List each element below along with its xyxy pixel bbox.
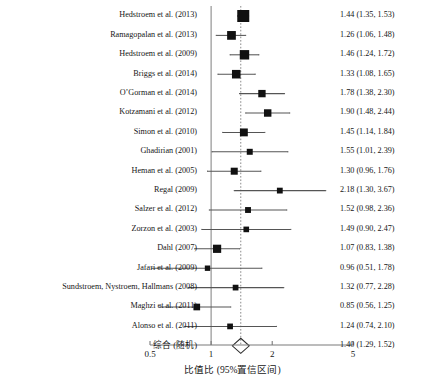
pooled-estimate-label: 1.40 (1.29, 1.52) xyxy=(340,341,395,349)
study-label: Heman et al. (2005) xyxy=(132,167,197,175)
study-label: Hedstroem et al. (2013) xyxy=(119,11,197,19)
effect-marker xyxy=(205,266,210,271)
effect-estimate-label: 1.26 (1.06, 1.48) xyxy=(340,31,395,39)
effect-marker xyxy=(264,109,271,116)
x-axis-title: 比值比 (95%置信区间) xyxy=(184,362,280,376)
study-label: Hedstroem et al. (2009) xyxy=(119,50,197,58)
study-label: Ramagopalan et al. (2013) xyxy=(110,31,197,39)
study-label: Maghzi et al. (2011) xyxy=(130,302,197,310)
study-label: O’Gorman et al. (2014) xyxy=(120,89,197,97)
effect-marker xyxy=(213,245,221,253)
effect-marker xyxy=(227,324,233,330)
study-label: Salzer et al. (2012) xyxy=(135,205,197,213)
study-label: Ghadirian (2001) xyxy=(140,147,197,155)
effect-marker xyxy=(277,188,283,194)
effect-marker xyxy=(247,149,253,155)
study-label: Jafari et al. (2009) xyxy=(137,264,197,272)
effect-estimate-label: 1.46 (1.24, 1.72) xyxy=(340,50,395,58)
effect-estimate-label: 0.96 (0.51, 1.78) xyxy=(340,264,395,272)
effect-marker xyxy=(227,31,236,40)
x-axis-tick-label: 5 xyxy=(351,349,356,359)
effect-marker xyxy=(245,207,251,213)
effect-estimate-label: 1.07 (0.83, 1.38) xyxy=(340,244,395,252)
study-label: Kotzamani et al. (2012) xyxy=(119,108,197,116)
effect-estimate-label: 0.85 (0.56, 1.25) xyxy=(340,302,395,310)
effect-estimate-label: 1.49 (0.90, 2.47) xyxy=(340,225,395,233)
effect-marker xyxy=(231,168,238,175)
pooled-label: 综合 (随机) xyxy=(153,341,197,350)
effect-estimate-label: 1.32 (0.77, 2.28) xyxy=(340,283,395,291)
effect-estimate-label: 2.18 (1.30, 3.67) xyxy=(340,186,395,194)
effect-marker xyxy=(240,50,249,59)
effect-estimate-label: 1.52 (0.98, 2.36) xyxy=(340,205,395,213)
effect-marker xyxy=(240,128,248,136)
effect-marker xyxy=(232,70,241,79)
study-label: Briggs et al. (2014) xyxy=(133,70,197,78)
study-label: Regal (2009) xyxy=(154,186,197,194)
study-label: Simon et al. (2010) xyxy=(134,128,197,136)
study-label: Alonso et al. (2011) xyxy=(132,322,197,330)
effect-marker xyxy=(243,227,249,233)
effect-estimate-label: 1.33 (1.08, 1.65) xyxy=(340,70,395,78)
x-axis-tick-label: 2 xyxy=(270,349,275,359)
effect-marker xyxy=(233,285,239,291)
effect-estimate-label: 1.44 (1.35, 1.53) xyxy=(340,11,395,19)
effect-estimate-label: 1.45 (1.14, 1.84) xyxy=(340,128,395,136)
effect-estimate-label: 1.55 (1.01, 2.39) xyxy=(340,147,395,155)
effect-estimate-label: 1.78 (1.38, 2.30) xyxy=(340,89,395,97)
x-axis-tick-label: 1 xyxy=(209,349,214,359)
effect-marker xyxy=(237,10,249,22)
study-label: Sundstroem, Nystroem, Hallmans (2008) xyxy=(62,283,197,291)
effect-estimate-label: 1.24 (0.74, 2.10) xyxy=(340,322,395,330)
study-label: Dahl (2007) xyxy=(157,244,197,252)
x-axis-tick-label: 0.5 xyxy=(144,349,155,359)
effect-estimate-label: 1.90 (1.48, 2.44) xyxy=(340,108,395,116)
study-label: Zorzon et al. (2003) xyxy=(132,225,197,233)
effect-estimate-label: 1.30 (0.96, 1.76) xyxy=(340,167,395,175)
effect-marker xyxy=(258,90,265,97)
